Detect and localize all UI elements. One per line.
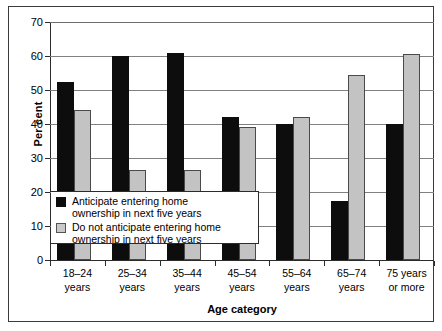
bar-not-anticipate — [403, 54, 420, 260]
y-tick-label-20: 20 — [31, 186, 43, 198]
y-tick-label-50: 50 — [31, 84, 43, 96]
bar-anticipate — [386, 124, 403, 260]
legend-label-anticipate-line1: Anticipate entering home — [72, 195, 188, 207]
legend-label-anticipate-line2: ownership in next five years — [72, 207, 202, 219]
y-tick-label-60: 60 — [31, 50, 43, 62]
x-axis-label: 25–34years — [103, 266, 161, 294]
bar-not-anticipate — [348, 75, 365, 260]
x-axis-label: 45–54years — [213, 266, 271, 294]
legend-item-anticipate: Anticipate entering home ownership in ne… — [56, 195, 256, 219]
y-tick-label-40: 40 — [31, 118, 43, 130]
bar-not-anticipate — [293, 117, 310, 260]
legend-swatch-grey-icon — [56, 223, 66, 233]
y-tick-label-0: 0 — [37, 254, 43, 266]
x-axis-label-line1: 18–24 — [48, 266, 106, 280]
y-tick-label-10: 10 — [31, 220, 43, 232]
y-tick-label-70: 70 — [31, 16, 43, 28]
legend-label-not-anticipate-line2: ownership in next five years — [72, 233, 202, 245]
x-axis-label-line2: years — [213, 280, 271, 294]
x-axis-label-line1: 25–34 — [103, 266, 161, 280]
bar-group — [324, 22, 379, 260]
legend-label-not-anticipate-line1: Do not anticipate entering home — [72, 221, 221, 233]
legend-label-not-anticipate: Do not anticipate entering home ownershi… — [72, 221, 221, 245]
x-axis-title: Age category — [50, 303, 434, 315]
chart-legend: Anticipate entering home ownership in ne… — [51, 191, 259, 244]
x-axis-label-line1: 35–44 — [158, 266, 216, 280]
x-axis-label-line2: years — [268, 280, 326, 294]
bar-group — [269, 22, 324, 260]
bar-anticipate — [331, 201, 348, 261]
x-axis-label: 65–74years — [323, 266, 381, 294]
legend-item-not-anticipate: Do not anticipate entering home ownershi… — [56, 221, 256, 245]
y-tick-label-30: 30 — [31, 152, 43, 164]
bar-anticipate — [276, 124, 293, 260]
x-axis-label-line1: 45–54 — [213, 266, 271, 280]
x-axis-label: 55–64years — [268, 266, 326, 294]
bar-group — [379, 22, 434, 260]
x-axis-label: 18–24years — [48, 266, 106, 294]
x-axis-labels: 18–24years25–34years35–44years45–54years… — [50, 266, 434, 298]
x-axis-label-line1: 55–64 — [268, 266, 326, 280]
legend-label-anticipate: Anticipate entering home ownership in ne… — [72, 195, 202, 219]
x-axis-label-line2: years — [158, 280, 216, 294]
x-axis-label-line2: years — [103, 280, 161, 294]
x-axis-label-line1: 65–74 — [323, 266, 381, 280]
x-axis-label-line2: years — [48, 280, 106, 294]
legend-swatch-black-icon — [56, 197, 66, 207]
x-axis-label: 35–44years — [158, 266, 216, 294]
x-axis-label-line2: years — [323, 280, 381, 294]
x-axis-label-line1: 75 years — [378, 266, 436, 280]
chart-figure: Per cent 010203040506070 18–24years25–34… — [0, 0, 442, 331]
x-axis-label-line2: or more — [378, 280, 436, 294]
gridline-0 — [50, 260, 434, 261]
x-axis-label: 75 yearsor more — [378, 266, 436, 294]
